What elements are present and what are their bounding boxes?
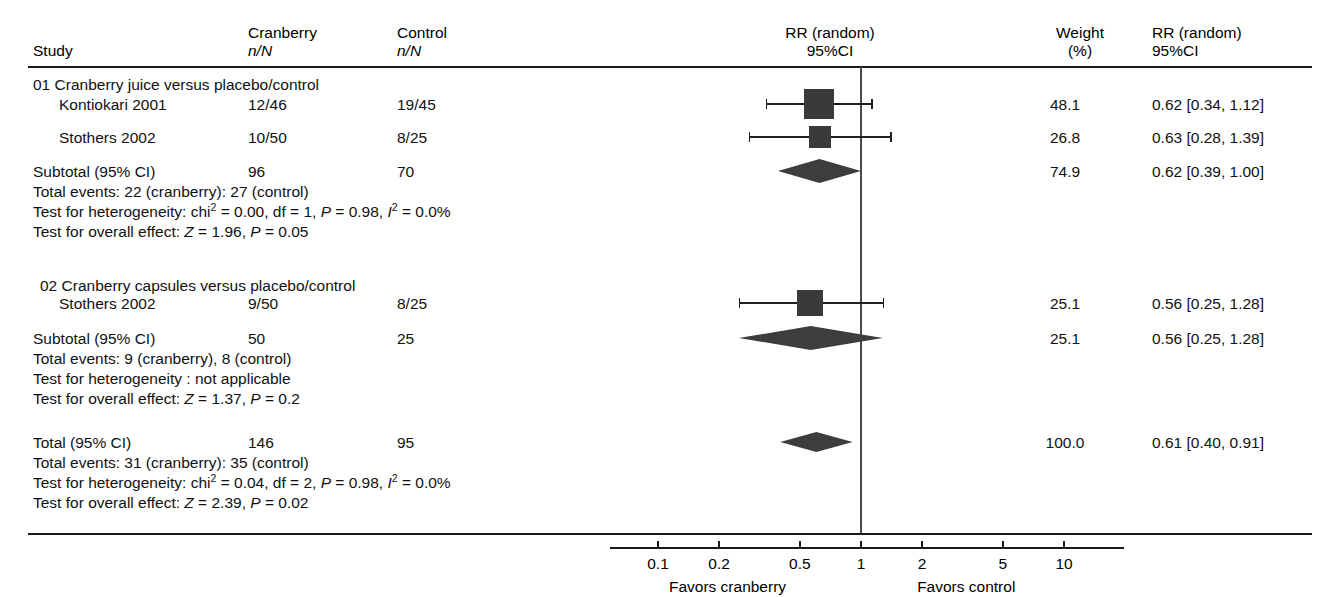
x-axis-line [610,547,1124,549]
x-axis-tick [860,541,861,547]
x-axis-tick-label: 0.1 [647,555,669,573]
confidence-interval-cap-left [766,99,768,109]
x-axis-tick-label: 10 [1055,555,1072,573]
x-axis-tick-label: 0.5 [789,555,811,573]
confidence-interval-cap-left [749,132,751,142]
forest-graphic-layer: 0.10.20.512510Favors cranberryFavors con… [0,0,1337,597]
effect-size-box [804,89,834,119]
x-axis-tick [1002,541,1003,547]
x-axis-tick [1063,541,1064,547]
favors-control-label: Favors control [917,578,1015,596]
effect-size-box [809,126,831,148]
x-axis-tick-label: 1 [857,555,866,573]
confidence-interval-cap-right [883,298,885,308]
confidence-interval-cap-right [871,99,873,109]
x-axis-tick-label: 0.2 [708,555,730,573]
x-axis-tick [799,541,800,547]
x-axis-tick-label: 2 [918,555,927,573]
confidence-interval-cap-right [890,132,892,142]
total-diamond [780,432,852,452]
x-axis-tick-label: 5 [999,555,1008,573]
x-axis-tick [657,541,658,547]
x-axis-tick [921,541,922,547]
effect-size-box [797,290,823,316]
forest-plot: Study Cranberry n/N Control n/N RR (rand… [0,0,1337,597]
subtotal-diamond [778,159,861,183]
x-axis-tick [718,541,719,547]
favors-cranberry-label: Favors cranberry [669,578,786,596]
confidence-interval-cap-left [739,298,741,308]
